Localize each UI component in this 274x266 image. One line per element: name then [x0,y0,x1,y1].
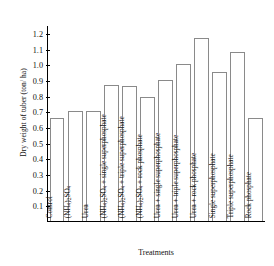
category-label: (NH4)2SO4 [65,186,72,219]
y-tick-label: 0.8 [33,92,43,101]
category-label: Single superphosphate [209,153,216,218]
category-label: Control [47,196,54,218]
y-tick-label: 0.2 [33,186,43,195]
y-tick-label: 1.1 [33,45,43,54]
x-axis-line [47,221,265,222]
y-axis-title: Dry weight of tuber (ton/ ha) [19,38,28,188]
y-tick-label: 0.6 [33,123,43,132]
y-tick-label: 1.0 [33,61,43,70]
category-label: Urea + single superphosphate [155,133,162,218]
category-label: Triple superphosphate [227,154,234,218]
bar-slot: Rock phosphate [247,26,265,221]
category-label: Urea [83,204,90,218]
x-axis-title: Treatments [47,248,265,257]
category-label: (NH4)2SO4 + rock phosphate [137,134,144,218]
bar-series: Control(NH4)2SO4Urea(NH4)2SO4 + single s… [48,26,265,221]
y-tick-label: 0.3 [33,170,43,179]
y-tick-label: 0.9 [33,76,43,85]
category-label: (NH4)2SO4 + single superphosphate [101,114,108,218]
y-tick-label: 0.7 [33,108,43,117]
category-label: (NH4)2SO4 + triple superphosphate [119,116,126,218]
y-tick-label: 0.1 [33,202,43,211]
bar-slot: (NH4)2SO4 [66,26,84,221]
category-label: Urea + triple superphosphate [173,135,180,218]
category-label: Rock phosphate [246,172,253,218]
plot-area: 1.21.11.00.90.80.70.60.50.40.30.20.1 Con… [47,26,265,222]
y-tick-label: 1.2 [33,29,43,38]
y-tick-label: 0.4 [33,155,43,164]
category-label: Urea + rock phosphate [191,153,198,218]
bar-chart: Dry weight of tuber (ton/ ha) 1.21.11.00… [0,0,274,266]
y-tick-label: 0.5 [33,139,43,148]
